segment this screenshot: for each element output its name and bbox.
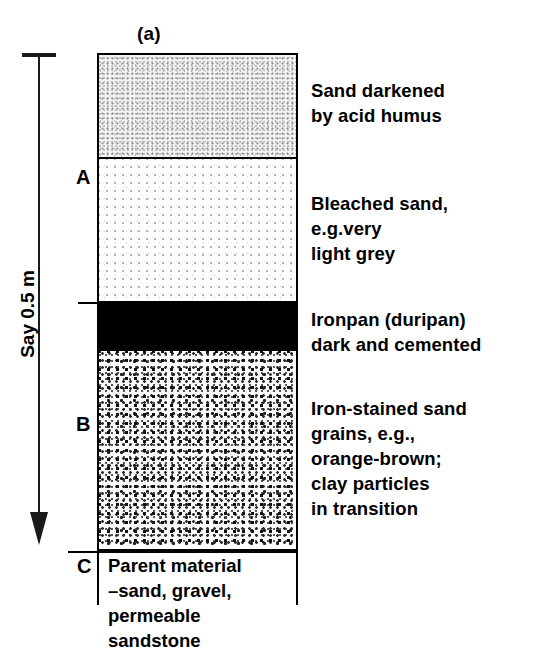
note-line: Bleached sand, — [311, 191, 542, 216]
note-line: –sand, gravel, — [108, 578, 318, 603]
texture-solid-black-icon — [99, 301, 296, 349]
texture-sparse-stipple-icon — [99, 157, 296, 301]
layer-ironpan — [99, 301, 296, 349]
note-line: light grey — [311, 241, 542, 266]
note-humus-darkened-sand: Sand darkened by acid humus — [311, 78, 542, 128]
note-line: e.g.very — [311, 216, 542, 241]
horizon-letter-b: B — [76, 414, 90, 434]
note-line: in transition — [311, 496, 542, 521]
note-line: sandstone — [108, 628, 318, 653]
note-line: Sand darkened — [311, 78, 542, 103]
note-line: dark and cemented — [311, 332, 542, 357]
note-bleached-sand: Bleached sand, e.g.very light grey — [311, 191, 542, 266]
note-ironpan: Ironpan (duripan) dark and cemented — [311, 307, 542, 357]
layer-humus-darkened-sand — [99, 55, 296, 157]
note-line: clay particles — [311, 471, 542, 496]
note-line: Iron-stained sand — [311, 396, 542, 421]
soil-profile-column — [97, 53, 298, 551]
texture-fine-stipple-icon — [99, 55, 296, 157]
layer-bleached-sand — [99, 157, 296, 301]
layer-iron-stained-sand — [99, 349, 296, 545]
horizon-letter-c: C — [77, 556, 91, 576]
note-line: Ironpan (duripan) — [311, 307, 542, 332]
horizon-letter-a: A — [76, 167, 90, 187]
note-line: Parent material — [108, 553, 318, 578]
note-line: by acid humus — [311, 103, 542, 128]
texture-coarse-speckle-icon — [99, 349, 296, 545]
c-horizon-left-rule — [97, 551, 99, 605]
note-iron-stained-sand: Iron-stained sand grains, e.g., orange-b… — [311, 396, 542, 521]
note-parent-material: Parent material –sand, gravel, permeable… — [108, 553, 318, 653]
ironpan-depth-tick — [78, 302, 99, 304]
note-line: permeable — [108, 603, 318, 628]
depth-scale-arrowhead-icon — [30, 512, 48, 545]
note-line: orange-brown; — [311, 446, 542, 471]
depth-scale-label: Say 0.5 m — [17, 234, 39, 394]
note-line: grains, e.g., — [311, 421, 542, 446]
